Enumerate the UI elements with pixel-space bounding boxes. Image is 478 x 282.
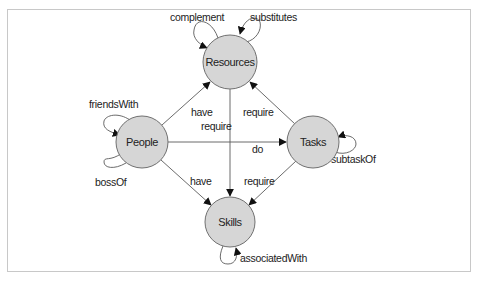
edge-people-have-resources: have [162, 82, 213, 125]
edge-tasks-require-resources: require [243, 82, 295, 124]
edge-label: require [201, 120, 232, 132]
entity-relationship-diagram: have require require do have require com… [0, 0, 478, 282]
node-label: Skills [218, 216, 242, 228]
node-label: Resources [206, 56, 256, 68]
loop-label: associatedWith [240, 252, 307, 264]
edge-label: require [243, 106, 274, 118]
node-resources: Resources [203, 35, 257, 89]
loop-arrow [220, 246, 236, 264]
loop-label: complement [170, 11, 225, 23]
loop-label: subtaskOf [331, 153, 376, 165]
node-label: Tasks [300, 136, 327, 148]
loop-label: friendsWith [89, 98, 139, 110]
self-loop-associatedWith: associatedWith [220, 246, 307, 264]
loop-label: bossOf [95, 176, 127, 188]
node-people: People [116, 116, 168, 168]
edge-label: have [191, 106, 213, 118]
loop-label: substitutes [250, 11, 297, 23]
edge-people-do-tasks: do [168, 142, 286, 155]
edge-label: do [252, 143, 264, 155]
arrow-line [162, 82, 210, 125]
node-tasks: Tasks [287, 116, 339, 168]
node-skills: Skills [205, 197, 255, 247]
edge-label: have [190, 175, 212, 187]
self-loop-substitutes: substitutes [240, 11, 297, 42]
node-label: People [126, 136, 158, 148]
edge-label: require [244, 175, 275, 187]
edge-people-have-skills: have [161, 160, 212, 205]
edge-tasks-require-skills: require [244, 161, 296, 205]
